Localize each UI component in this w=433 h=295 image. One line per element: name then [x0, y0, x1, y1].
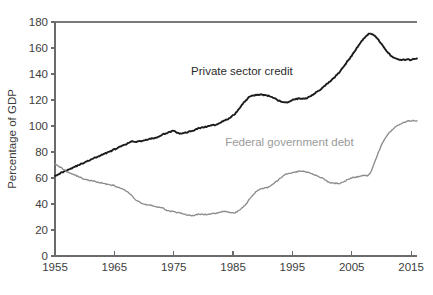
- chart-container: 020406080100120140160180 195519651975198…: [0, 0, 433, 295]
- y-tick-label: 60: [35, 172, 48, 184]
- x-axis-ticks: 1955196519751985199520052015: [42, 251, 424, 273]
- y-tick-label: 20: [35, 224, 48, 236]
- x-tick-label: 2015: [398, 261, 424, 273]
- y-tick-label: 80: [35, 146, 48, 158]
- private-sector-credit-label: Private sector credit: [191, 65, 293, 77]
- y-tick-label: 40: [35, 198, 48, 210]
- x-tick-label: 2005: [339, 261, 365, 273]
- y-tick-label: 100: [29, 120, 48, 132]
- chart-series: [55, 34, 417, 216]
- y-tick-label: 180: [29, 16, 48, 28]
- x-tick-label: 1965: [102, 261, 128, 273]
- x-tick-label: 1995: [280, 261, 306, 273]
- x-tick-label: 1955: [42, 261, 68, 273]
- series-line-private-sector-credit: [55, 34, 417, 176]
- y-tick-label: 160: [29, 42, 48, 54]
- x-tick-label: 1975: [161, 261, 187, 273]
- chart-annotations: Private sector creditFederal government …: [191, 65, 354, 147]
- y-tick-label: 140: [29, 68, 48, 80]
- x-tick-label: 1985: [220, 261, 246, 273]
- line-chart: 020406080100120140160180 195519651975198…: [0, 0, 433, 295]
- federal-government-debt-label: Federal government debt: [225, 136, 354, 148]
- y-axis-ticks: 020406080100120140160180: [29, 16, 55, 262]
- y-tick-label: 120: [29, 94, 48, 106]
- y-axis-title: Percentage of GDP: [6, 89, 18, 189]
